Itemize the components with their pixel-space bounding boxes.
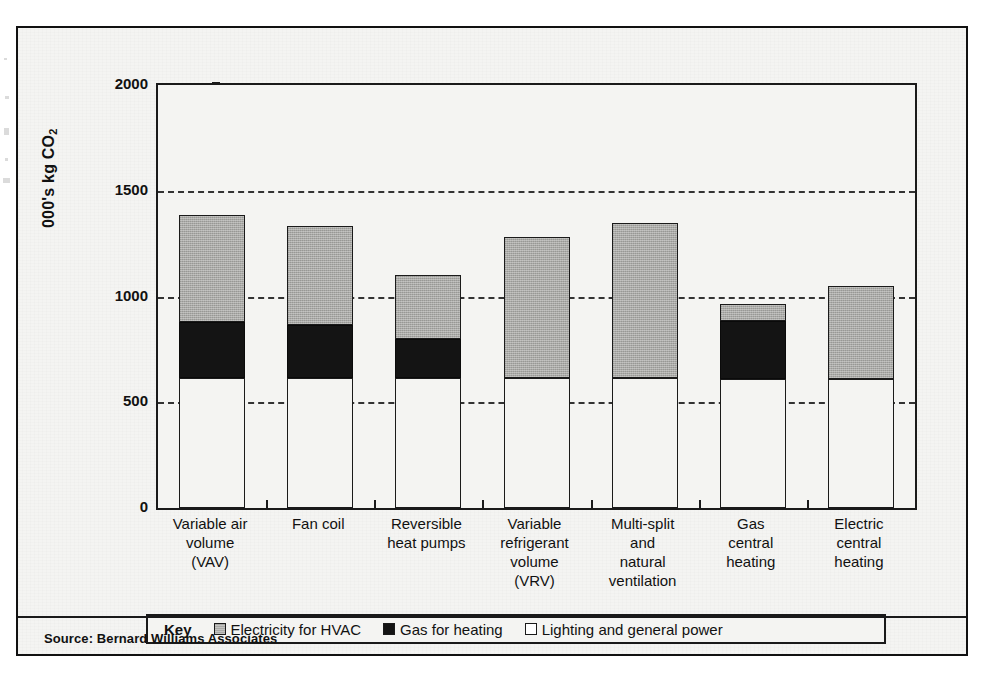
x-axis-category-label: Reversibleheat pumps: [372, 514, 480, 552]
x-axis-tick: [266, 500, 268, 510]
bar-segment-lighting[interactable]: [179, 378, 245, 508]
bar-group[interactable]: [504, 85, 570, 508]
x-axis-tick: [482, 500, 484, 510]
scan-smudge: [4, 58, 7, 60]
legend-label: Lighting and general power: [542, 621, 723, 638]
bar-segment-lighting[interactable]: [504, 378, 570, 508]
bar-group[interactable]: [179, 85, 245, 508]
x-axis-category-label: Multi-splitandnaturalventilation: [589, 514, 697, 590]
bar-segment-gas[interactable]: [720, 321, 786, 379]
bar-segment-lighting[interactable]: [395, 378, 461, 508]
category-label-line: natural: [589, 552, 697, 571]
bar-segment-elec[interactable]: [287, 226, 353, 325]
category-label-line: volume: [156, 533, 264, 552]
legend-swatch-lighting-icon: [525, 623, 537, 635]
bar-series-container: [158, 85, 915, 508]
chart-figure: 000's kg CO2 0500100015002000 Variable a…: [16, 26, 968, 656]
scan-smudge: [3, 178, 10, 183]
legend-entry[interactable]: Lighting and general power: [525, 621, 723, 638]
bar-group[interactable]: [720, 85, 786, 508]
bar-segment-lighting[interactable]: [287, 378, 353, 508]
bar-group[interactable]: [287, 85, 353, 508]
bar-segment-elec[interactable]: [612, 223, 678, 378]
y-axis-tick-labels: 0500100015002000: [80, 83, 148, 506]
category-label-line: Variable air: [156, 514, 264, 533]
legend-entry[interactable]: Gas for heating: [383, 621, 503, 638]
category-label-line: heat pumps: [372, 533, 480, 552]
scan-smudge: [4, 128, 9, 135]
bar-segment-elec[interactable]: [720, 304, 786, 321]
x-axis-tick: [699, 500, 701, 510]
bar-segment-elec[interactable]: [395, 275, 461, 338]
category-label-line: Gas: [697, 514, 805, 533]
legend-entries: Electricity for HVACGas for heatingLight…: [214, 621, 745, 638]
bar-segment-gas[interactable]: [179, 322, 245, 378]
category-label-line: Fan coil: [264, 514, 372, 533]
bar-segment-elec[interactable]: [504, 237, 570, 378]
bar-segment-elec[interactable]: [179, 215, 245, 322]
y-axis-tick-label: 0: [80, 498, 148, 515]
bar-segment-elec[interactable]: [828, 286, 894, 379]
x-axis-category-label: Variable airvolume(VAV): [156, 514, 264, 571]
source-divider: [18, 616, 966, 618]
bar-segment-lighting[interactable]: [720, 379, 786, 508]
y-axis-tick-label: 1500: [80, 180, 148, 197]
category-label-line: and: [589, 533, 697, 552]
bar-group[interactable]: [828, 85, 894, 508]
category-label-line: ventilation: [589, 571, 697, 590]
legend-swatch-gas-icon: [383, 623, 395, 635]
x-axis-tick: [591, 500, 593, 510]
y-axis-tick-label: 2000: [80, 75, 148, 92]
x-axis-tick: [374, 500, 376, 510]
category-label-line: Multi-split: [589, 514, 697, 533]
category-label-line: volume: [480, 552, 588, 571]
category-label-line: central: [697, 533, 805, 552]
y-axis-tick-label: 1000: [80, 286, 148, 303]
scan-smudge: [5, 96, 9, 99]
scan-smudge: [5, 158, 8, 161]
category-label-line: heating: [805, 552, 913, 571]
x-axis-category-label: Gascentralheating: [697, 514, 805, 571]
source-attribution: Source: Bernard Williams Associates: [44, 631, 277, 646]
category-label-line: (VRV): [480, 571, 588, 590]
bar-segment-gas[interactable]: [395, 339, 461, 378]
bar-segment-gas[interactable]: [287, 325, 353, 378]
x-axis-category-label: Fan coil: [264, 514, 372, 533]
x-axis-category-labels: Variable airvolume(VAV)Fan coilReversibl…: [156, 514, 917, 610]
bar-group[interactable]: [612, 85, 678, 508]
bar-segment-lighting[interactable]: [612, 378, 678, 508]
bar-segment-lighting[interactable]: [828, 379, 894, 508]
x-axis-tick: [807, 500, 809, 510]
category-label-line: Electric: [805, 514, 913, 533]
category-label-line: heating: [697, 552, 805, 571]
category-label-line: (VAV): [156, 552, 264, 571]
category-label-line: central: [805, 533, 913, 552]
category-label-line: refrigerant: [480, 533, 588, 552]
category-label-line: Variable: [480, 514, 588, 533]
y-axis-tick-label: 500: [80, 392, 148, 409]
y-axis-title: 000's kg CO2: [40, 38, 58, 228]
legend-label: Gas for heating: [400, 621, 503, 638]
x-axis-category-label: Variablerefrigerantvolume(VRV): [480, 514, 588, 590]
plot-area: [156, 83, 917, 510]
category-label-line: Reversible: [372, 514, 480, 533]
bar-group[interactable]: [395, 85, 461, 508]
x-axis-category-label: Electriccentralheating: [805, 514, 913, 571]
